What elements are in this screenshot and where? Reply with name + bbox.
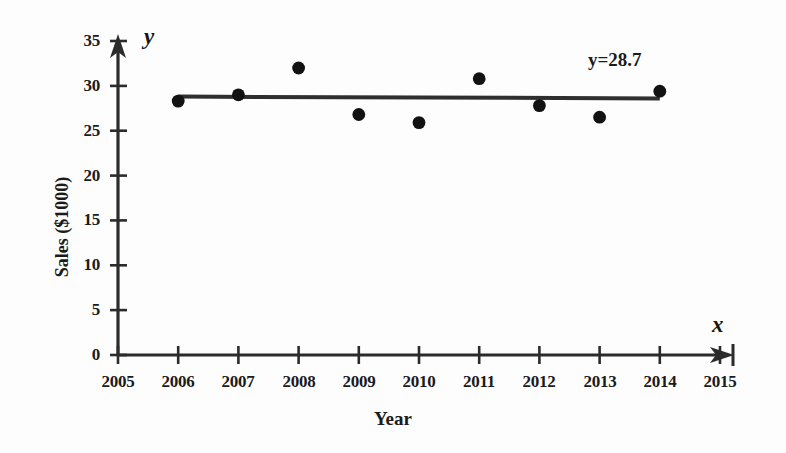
data-point — [653, 85, 666, 98]
data-point — [473, 72, 486, 85]
data-point — [533, 99, 546, 112]
y-axis-variable-label: y — [144, 24, 154, 50]
data-point — [292, 62, 305, 75]
trend-equation-label: y=28.7 — [588, 49, 642, 71]
y-tick-label-0: 0 — [72, 345, 100, 365]
x-tick-label-2006: 2006 — [162, 372, 195, 392]
data-point — [232, 88, 245, 101]
x-tick-label-2007: 2007 — [222, 372, 255, 392]
data-point — [172, 95, 185, 108]
x-tick-label-2005: 2005 — [102, 372, 135, 392]
trend-line — [178, 97, 660, 99]
x-tick-label-2009: 2009 — [343, 372, 376, 392]
data-point — [413, 116, 426, 129]
x-tick-label-2010: 2010 — [403, 372, 436, 392]
x-tick-label-2012: 2012 — [523, 372, 556, 392]
chart-figure: 0 5 10 15 20 25 30 35 2005 2006 2007 200… — [0, 0, 786, 453]
x-tick-label-2014: 2014 — [644, 372, 677, 392]
y-tick-label-5: 5 — [72, 300, 100, 320]
x-tick-label-2008: 2008 — [283, 372, 316, 392]
x-tick-label-2015: 2015 — [704, 372, 737, 392]
y-axis — [110, 34, 126, 355]
data-point — [593, 111, 606, 124]
x-axis-variable-label: x — [712, 312, 724, 338]
x-tick-label-2011: 2011 — [463, 372, 495, 392]
x-tick-label-2013: 2013 — [584, 372, 617, 392]
y-tick-label-25: 25 — [62, 121, 100, 141]
x-axis-title: Year — [0, 408, 786, 430]
data-point — [352, 108, 365, 121]
y-axis-title: Sales ($1000) — [52, 176, 73, 277]
y-tick-label-30: 30 — [62, 76, 100, 96]
y-tick-label-35: 35 — [62, 31, 100, 51]
x-axis — [118, 344, 734, 366]
